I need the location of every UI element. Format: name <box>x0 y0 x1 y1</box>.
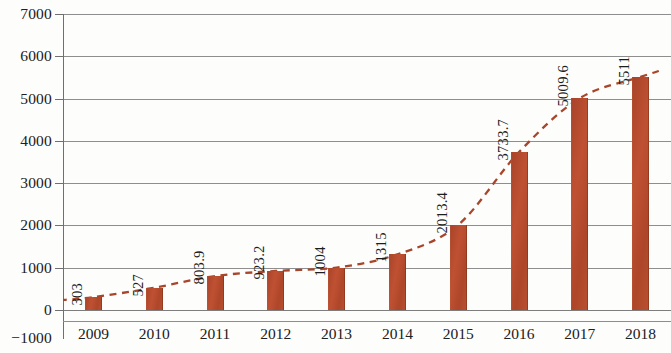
bar-value-label: 923.2 <box>252 245 267 279</box>
bar-value-label: 2013.4 <box>434 192 449 234</box>
bar-value-label: 3733.7 <box>495 119 510 161</box>
y-axis-tick-label: 2000 <box>2 217 52 233</box>
y-axis-tick-label: 7000 <box>2 6 52 22</box>
bar-value-label: 803.9 <box>191 250 206 284</box>
gridline <box>63 310 671 311</box>
bar-value-label: 5009.6 <box>556 65 571 107</box>
bar-value-label: 303 <box>69 283 84 306</box>
y-axis-tick <box>55 141 64 142</box>
y-axis-tick-label: −1000 <box>2 330 52 346</box>
bar <box>511 152 528 310</box>
bar <box>207 276 224 310</box>
bar <box>328 268 345 310</box>
y-axis-tick <box>55 99 64 100</box>
bar-value-label: 5511 <box>617 56 632 86</box>
bar <box>85 297 102 310</box>
bar <box>632 77 649 310</box>
bar <box>267 271 284 310</box>
gridline <box>63 56 671 57</box>
x-axis-tick-label: 2014 <box>367 326 427 342</box>
x-axis-tick-label: 2010 <box>124 326 184 342</box>
x-axis-tick-label: 2016 <box>489 326 549 342</box>
y-axis-tick-label: 3000 <box>2 175 52 191</box>
y-axis-tick-label: 0 <box>2 302 52 318</box>
x-axis-tick-label: 2013 <box>307 326 367 342</box>
x-axis-tick-label: 2018 <box>611 326 671 342</box>
y-axis-tick-label: 5000 <box>2 91 52 107</box>
y-axis-tick-labels: 70006000500040003000200010000−1000 <box>0 0 52 353</box>
x-axis-line <box>63 321 671 322</box>
y-axis-tick-label: 1000 <box>2 260 52 276</box>
bar <box>146 288 163 310</box>
y-axis-tick <box>55 183 64 184</box>
gridline <box>63 14 671 15</box>
y-axis-tick <box>55 225 64 226</box>
x-axis-tick-label: 2012 <box>246 326 306 342</box>
x-axis-tick-label: 2011 <box>185 326 245 342</box>
bar-value-label: 527 <box>130 274 145 297</box>
y-axis-tick-label: 4000 <box>2 133 52 149</box>
bar-value-label: 1315 <box>373 233 388 263</box>
bar <box>450 225 467 310</box>
y-axis-tick <box>55 310 64 311</box>
y-axis-tick <box>55 14 64 15</box>
y-axis-tick-label: 6000 <box>2 48 52 64</box>
y-axis-tick <box>55 268 64 269</box>
chart-figure: 70006000500040003000200010000−1000 30320… <box>0 0 671 353</box>
x-axis-tick-label: 2015 <box>428 326 488 342</box>
x-axis-tick-label: 2017 <box>550 326 610 342</box>
bar-value-label: 1004 <box>313 246 328 276</box>
y-axis-tick <box>55 56 64 57</box>
bar <box>571 98 588 310</box>
x-axis-tick-label: 2009 <box>63 326 123 342</box>
bar <box>389 254 406 310</box>
